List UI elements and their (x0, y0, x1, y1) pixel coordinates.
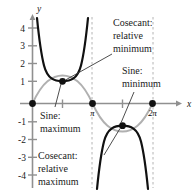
leader-cosecant-relative-minimum (66, 54, 113, 80)
annotation-cosecant-relative-minimum: Cosecant: relative minimum (113, 17, 152, 54)
y-tick-label-minus-4: -4 (18, 171, 26, 181)
annotation-sine-max-line1: Sine: (40, 110, 61, 121)
annotation-csc-max-line2: relative (38, 163, 69, 174)
x-axis-arrowhead (176, 101, 182, 107)
x-tick-label-pi: π (90, 108, 95, 118)
annotation-csc-min-line1: Cosecant: (113, 17, 152, 28)
point-zero-two-pi (149, 100, 156, 107)
annotation-sine-min-line1: Sine: (122, 65, 143, 76)
graph-canvas: 4 3 2 1 -1 -2 -3 -4 π 2π y x Cosecant: r… (0, 0, 196, 191)
y-tick-label-minus-1: -1 (18, 117, 26, 127)
y-axis-label: y (36, 4, 42, 14)
point-zero-pi (89, 100, 96, 107)
annotation-csc-min-line3: minimum (113, 43, 152, 54)
trig-graph-figure: 4 3 2 1 -1 -2 -3 -4 π 2π y x Cosecant: r… (0, 0, 196, 191)
y-axis-arrowhead (30, 14, 36, 20)
annotation-sine-min-line2: minimum (122, 78, 161, 89)
y-tick-label-3: 3 (20, 41, 25, 51)
annotation-sine-max-line2: maximum (40, 123, 81, 134)
x-axis-label: x (186, 99, 192, 109)
annotation-sine-minimum: Sine: minimum (122, 65, 161, 89)
y-tick-label-minus-2: -2 (18, 135, 26, 145)
y-tick-label-4: 4 (20, 24, 25, 34)
y-tick-label-2: 2 (20, 59, 25, 69)
annotation-csc-max-line1: Cosecant: (38, 150, 77, 161)
annotation-csc-min-line2: relative (113, 30, 144, 41)
y-tick-label-minus-3: -3 (18, 153, 26, 163)
annotation-csc-max-line3: maximum (38, 176, 79, 187)
x-tick-label-two-pi: 2π (148, 108, 157, 118)
point-sine-maximum (59, 78, 66, 85)
leader-cosecant-relative-maximum (104, 129, 120, 156)
cosecant-branch-lower (97, 126, 148, 189)
point-sine-minimum (119, 122, 126, 129)
point-origin (29, 100, 36, 107)
y-tick-label-1: 1 (20, 77, 25, 87)
annotation-cosecant-relative-maximum: Cosecant: relative maximum (38, 150, 79, 187)
annotation-sine-maximum: Sine: maximum (40, 110, 81, 134)
